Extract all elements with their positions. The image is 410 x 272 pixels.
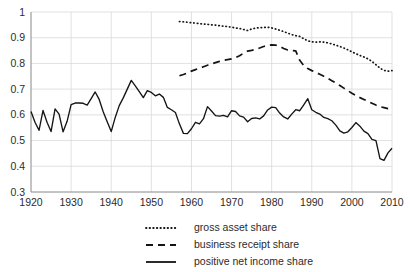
x-tick-label: 1930 [59,196,83,208]
y-tick-label: 0.8 [10,57,25,69]
x-tick-label: 1960 [180,196,204,208]
y-tick-label: 0.5 [10,134,25,146]
x-tick-label: 1970 [220,196,244,208]
legend-item-label: gross asset share [194,221,277,233]
legend-item-label: positive net income share [194,255,313,267]
x-tick-label: 1940 [100,196,124,208]
legend-item-label: business receipt share [194,238,299,250]
y-tick-label: 1 [19,6,25,18]
x-tick-label: 2010 [380,196,404,208]
x-tick-label: 1920 [19,196,43,208]
chart-container: 0.30.40.50.60.70.80.91 19201930194019501… [0,0,410,272]
y-tick-label: 0.7 [10,83,25,95]
line-chart-figure: 0.30.40.50.60.70.80.91 19201930194019501… [0,0,410,272]
x-tick-label: 1980 [260,196,284,208]
y-tick-label: 0.4 [10,160,25,172]
x-tick-label: 1990 [300,196,324,208]
y-tick-label: 0.6 [10,108,25,120]
x-tick-label: 1950 [140,196,164,208]
x-tick-label: 2000 [340,196,364,208]
y-tick-label: 0.9 [10,31,25,43]
